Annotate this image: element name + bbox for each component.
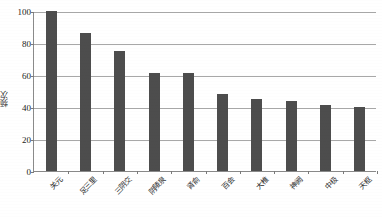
x-tick-label-1: 足三里 (77, 174, 100, 197)
y-tick-label-2: 40 (10, 103, 31, 113)
x-tick-label-5: 百会 (219, 174, 237, 192)
bar (320, 105, 331, 171)
bar (251, 99, 262, 171)
x-tick-label-6: 大椎 (253, 174, 271, 192)
y-tick-label-1: 20 (10, 135, 31, 145)
bar-chart-figure: 频次 020406080100 关元足三里三阴交阴陵泉肾俞百会大椎神阙中极天枢 (0, 0, 382, 217)
y-tick-label-4: 80 (10, 39, 31, 49)
bar (217, 94, 228, 171)
y-tickmark-0 (31, 172, 34, 173)
x-tick-label-3: 阴陵泉 (145, 174, 168, 197)
bar-series (34, 12, 376, 171)
y-tick-label-3: 60 (10, 71, 31, 81)
bar (46, 11, 57, 171)
x-tickmark-9 (377, 171, 378, 174)
x-tick-label-4: 肾俞 (184, 174, 202, 192)
x-tick-label-2: 三阴交 (111, 174, 134, 197)
bar (80, 33, 91, 171)
y-tick-label-5: 100 (10, 7, 31, 17)
x-axis-tick-labels: 关元足三里三阴交阴陵泉肾俞百会大椎神阙中极天枢 (33, 174, 376, 217)
y-tick-label-0: 0 (10, 167, 31, 177)
y-axis-tick-labels: 020406080100 (10, 0, 31, 217)
x-tick-label-9: 天枢 (356, 174, 374, 192)
bar (183, 73, 194, 171)
bar (114, 51, 125, 171)
bar (149, 73, 160, 171)
bar (354, 107, 365, 171)
x-tick-label-7: 神阙 (287, 174, 305, 192)
plot-area (33, 12, 376, 172)
x-tick-label-0: 关元 (47, 174, 65, 192)
x-tick-label-8: 中极 (322, 174, 340, 192)
bar (286, 101, 297, 171)
